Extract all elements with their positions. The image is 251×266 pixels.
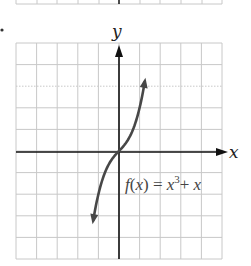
eq-equals: =	[149, 175, 167, 194]
eq-plus: +	[180, 175, 194, 194]
function-label: f(x) = x3+ x	[125, 173, 202, 194]
axes	[16, 45, 228, 259]
function-graph: y x f(x) = x3+ x	[0, 0, 251, 266]
x-axis-label: x	[229, 142, 239, 162]
y-axis-label: y	[111, 21, 122, 41]
y-axis-arrow-icon	[115, 45, 123, 57]
previous-graph-fragment	[16, 0, 222, 4]
curve-arrow-down-icon	[90, 214, 98, 225]
curve-arrow-up-icon	[140, 78, 148, 89]
eq-tail: x	[193, 175, 202, 194]
bullet-marker	[0, 28, 3, 31]
